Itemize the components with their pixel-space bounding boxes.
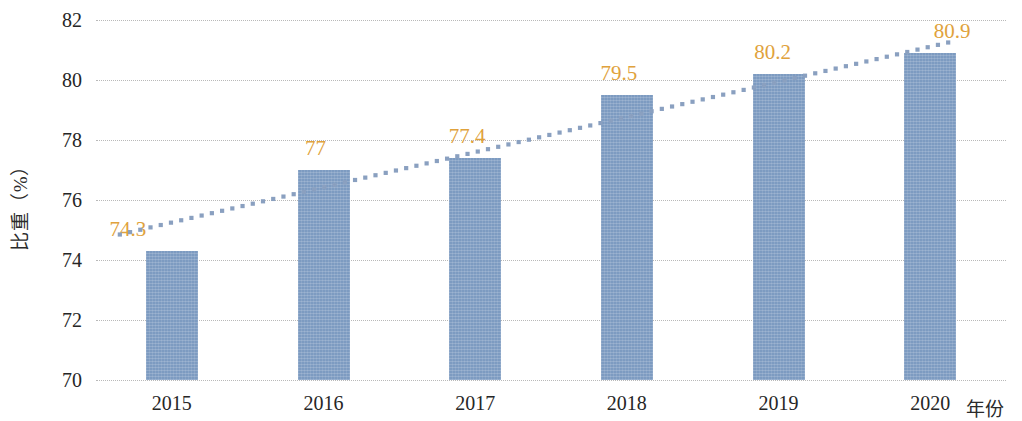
trendline-dot	[425, 161, 429, 165]
trendline-dot	[394, 168, 398, 172]
trendline-dot	[813, 71, 817, 75]
trendline-dot	[373, 173, 377, 177]
trendline-dot	[874, 57, 878, 61]
x-tick-label: 2017	[420, 392, 530, 415]
trendline-dot	[588, 123, 592, 127]
trendline-dot	[220, 209, 224, 213]
trendline-dot	[823, 69, 827, 73]
gridline	[96, 140, 1006, 141]
y-tick-label: 80	[38, 69, 82, 92]
gridline	[96, 80, 1006, 81]
gridline	[96, 380, 1006, 381]
trendline-dot	[292, 192, 296, 196]
plot-area: 74.37777.479.580.280.9	[96, 20, 1006, 380]
trendline-dot	[926, 45, 930, 49]
trendline-dot	[251, 202, 255, 206]
y-axis-title: 比重（%）	[5, 139, 32, 269]
trendline-dot	[721, 93, 725, 97]
trendline-dot	[680, 102, 684, 106]
y-axis-tick-labels: 82807876747270	[34, 20, 82, 380]
data-label: 74.3	[83, 217, 173, 242]
data-label: 80.9	[907, 19, 997, 44]
trendline-dot	[435, 159, 439, 163]
trendline-dot	[670, 104, 674, 108]
data-label: 77	[271, 136, 361, 161]
trendline-dot	[210, 211, 214, 215]
trendline-dot	[711, 95, 715, 99]
trendline-dot	[281, 194, 285, 198]
gridline	[96, 200, 1006, 201]
gridline	[96, 260, 1006, 261]
trendline-dot	[731, 90, 735, 94]
y-tick-label: 78	[38, 129, 82, 152]
trendline-dot	[476, 149, 480, 153]
trendline-dot	[568, 128, 572, 132]
bar	[753, 74, 805, 380]
trendline-dot	[189, 216, 193, 220]
trendline-dot	[690, 100, 694, 104]
trendline-dot	[547, 133, 551, 137]
trendline-dot	[885, 55, 889, 59]
trendline-dot	[200, 213, 204, 217]
trendline-dot	[230, 206, 234, 210]
x-axis-tick-labels: 201520162017201820192020	[96, 392, 1006, 421]
bar-chart: 比重（%） 82807876747270 74.37777.479.580.28…	[0, 0, 1022, 421]
x-tick-label: 2016	[269, 392, 379, 415]
trendline-dot	[864, 59, 868, 63]
bar	[146, 251, 198, 380]
trendline-dot	[557, 130, 561, 134]
x-tick-label: 2019	[724, 392, 834, 415]
y-tick-label: 74	[38, 249, 82, 272]
trendline-dot	[240, 204, 244, 208]
x-tick-label: 2018	[572, 392, 682, 415]
trendline-dot	[742, 88, 746, 92]
trendline-dot	[895, 52, 899, 56]
gridline	[96, 20, 1006, 21]
x-tick-label: 2015	[117, 392, 227, 415]
trendline-dot	[353, 178, 357, 182]
gridline	[96, 320, 1006, 321]
bar	[601, 95, 653, 380]
trendline-dot	[537, 135, 541, 139]
trendline-dot	[578, 126, 582, 130]
data-label: 77.4	[422, 124, 512, 149]
trendline-dot	[660, 107, 664, 111]
trendline-dot	[834, 66, 838, 70]
trendline-dot	[404, 166, 408, 170]
trendline-dot	[465, 152, 469, 156]
trendline-dot	[179, 218, 183, 222]
y-tick-label: 82	[38, 9, 82, 32]
trendline-dot	[854, 62, 858, 66]
data-label: 80.2	[728, 40, 818, 65]
trendline-dot	[844, 64, 848, 68]
y-tick-label: 76	[38, 189, 82, 212]
data-label: 79.5	[574, 61, 664, 86]
trendline-dot	[414, 164, 418, 168]
x-axis-title: 年份	[966, 394, 1004, 421]
trendline-dot	[915, 48, 919, 52]
y-tick-label: 72	[38, 309, 82, 332]
trendline-dot	[701, 97, 705, 101]
trendline-dot	[363, 176, 367, 180]
bar	[904, 53, 956, 380]
bar	[298, 170, 350, 380]
trendline-dot	[384, 171, 388, 175]
y-tick-label: 70	[38, 369, 82, 392]
bar	[449, 158, 501, 380]
